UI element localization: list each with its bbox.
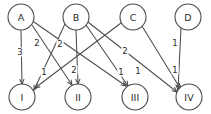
edge-weight-label: 1 [172,65,177,75]
edge-weight-label: 2 [57,39,62,49]
node-IV[interactable]: IV [176,84,202,110]
nodes-layer: ABCDIIIIIIIV [8,4,202,110]
edge-C-IV [142,26,180,88]
edges-layer [20,22,181,92]
node-label: D [184,12,191,23]
edge-A-I [20,30,24,84]
node-label: C [130,12,137,23]
edge-weight-label: 1 [135,66,140,76]
node-label: B [73,12,80,23]
edge-weight-label: 2 [34,38,39,48]
edge-weight-label: 2 [71,65,76,75]
edge-line [34,24,65,90]
edge-line [88,22,177,92]
node-I[interactable]: I [9,84,35,110]
edge-weight-label: 3 [17,47,22,57]
node-label: IV [184,92,194,103]
node-label: I [21,92,24,103]
node-II[interactable]: II [65,84,91,110]
graph-figure: ABCDIIIIIIIV 3221211211 [0,0,211,114]
edge-line [178,28,181,90]
node-label: III [131,92,139,103]
edge-weight-label: 1 [41,67,46,77]
edge-weight-label: 1 [172,38,177,48]
node-C[interactable]: C [120,4,146,30]
edge-B-I [34,24,65,90]
node-label: A [18,12,25,23]
edge-weights-layer: 3221211211 [16,38,178,77]
node-A[interactable]: A [8,4,34,30]
node-D[interactable]: D [175,4,201,30]
edge-line [21,30,22,84]
edge-B-IV [88,22,177,92]
node-III[interactable]: III [122,84,148,110]
edge-weight-label: 1 [118,67,123,77]
edge-weight-label: 2 [122,46,127,56]
node-B[interactable]: B [63,4,89,30]
graph-canvas: ABCDIIIIIIIV 3221211211 [0,0,211,114]
edge-line [142,26,180,88]
node-label: II [75,92,81,103]
